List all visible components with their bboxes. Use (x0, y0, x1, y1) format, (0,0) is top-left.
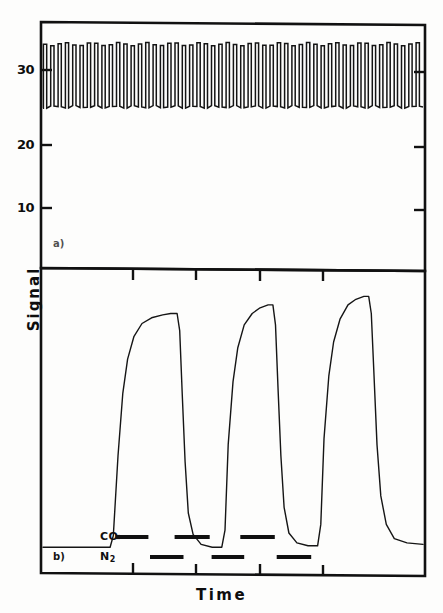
figure-container: 30 20 10 a) b) CO N2 Signal Time (0, 0, 443, 613)
axis-title-signal: Signal (25, 239, 43, 359)
panel-b-label: b) (53, 551, 65, 562)
signal-response-trace (43, 296, 423, 547)
oscillating-signal-trace (43, 43, 423, 109)
gas-label-n2: N2 (100, 550, 116, 563)
panel-b-border (41, 268, 425, 576)
gas-label-co: CO (100, 530, 118, 543)
y-tick-label-30: 30 (4, 62, 34, 77)
panel-b-frame (41, 268, 425, 576)
y-tick-label-20: 20 (4, 137, 34, 152)
figure-svg (0, 0, 443, 613)
y-tick-label-10: 10 (4, 200, 34, 215)
gas-label-n2-text: N (100, 550, 110, 563)
axis-title-time: Time (0, 586, 443, 604)
gas-label-n2-subscript: 2 (110, 555, 116, 564)
panel-a-label: a) (53, 238, 64, 249)
